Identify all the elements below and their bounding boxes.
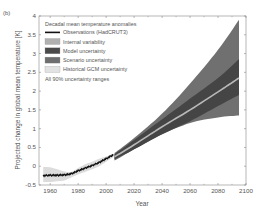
y-tick-label: 4	[33, 12, 37, 19]
y-tick-label: 3	[33, 50, 37, 57]
y-tick-label: 0	[33, 162, 37, 169]
legend-entry-label: Observations (HadCRUT3)	[63, 29, 128, 35]
y-tick-label: 1.5	[27, 106, 36, 113]
x-tick-label: 2020	[127, 187, 141, 194]
legend-entry-label: Internal variability	[63, 39, 105, 45]
y-tick-label: 1	[33, 125, 37, 132]
y-tick-label: 2	[33, 87, 37, 94]
legend-swatch	[45, 48, 60, 54]
legend-title: Decadal mean temperature anomalies	[45, 21, 137, 27]
legend-swatch	[45, 57, 60, 63]
legend-entry-label: Model uncertainty	[63, 48, 106, 54]
panel-label: (b)	[3, 10, 10, 16]
legend-entry-label: Scenario uncertainty	[63, 57, 112, 63]
x-tick-label: 1980	[71, 187, 85, 194]
legend-note: All 90% uncertainty ranges	[45, 76, 109, 82]
x-tick-label: 2080	[211, 187, 225, 194]
y-axis-label: Projected change in global mean temperat…	[14, 30, 22, 169]
chart: -0.500.511.522.533.541960198020002020204…	[0, 0, 267, 211]
y-tick-label: -0.5	[25, 181, 36, 188]
legend-swatch	[45, 66, 60, 72]
x-tick-label: 2100	[239, 187, 253, 194]
y-tick-label: 3.5	[27, 31, 36, 38]
legend: Decadal mean temperature anomaliesObserv…	[45, 21, 137, 82]
legend-swatch	[45, 39, 60, 45]
x-tick-label: 1960	[43, 187, 57, 194]
x-tick-label: 2060	[183, 187, 197, 194]
x-tick-label: 2000	[99, 187, 113, 194]
x-tick-label: 2040	[155, 187, 169, 194]
central-projection-line	[115, 78, 240, 157]
x-axis-label: Year	[135, 200, 149, 207]
y-tick-label: 2.5	[27, 68, 36, 75]
historical-gcm-band	[43, 154, 113, 183]
y-tick-label: 0.5	[27, 143, 36, 150]
legend-entry-label: Historical GCM uncertainty	[63, 66, 127, 72]
